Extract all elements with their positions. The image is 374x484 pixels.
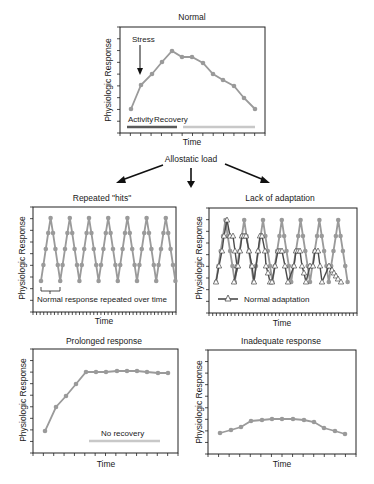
- circle-marker-icon: [82, 247, 87, 252]
- circle-marker-icon: [322, 426, 327, 431]
- panel-title: Prolonged response: [66, 336, 142, 346]
- circle-marker-icon: [41, 263, 46, 268]
- plot-frame: [208, 350, 356, 454]
- circle-marker-icon: [331, 249, 336, 254]
- circle-marker-icon: [270, 417, 275, 422]
- circle-marker-icon: [89, 231, 94, 236]
- circle-marker-icon: [338, 234, 343, 239]
- circle-marker-icon: [149, 247, 154, 252]
- prolonged-series: [43, 369, 171, 434]
- circle-marker-icon: [159, 247, 164, 252]
- x-axis-ticks: [209, 313, 357, 316]
- circle-marker-icon: [56, 263, 61, 268]
- circle-marker-icon: [92, 247, 97, 252]
- circle-marker-icon: [161, 231, 166, 236]
- panel-title: Repeated "hits": [73, 193, 132, 203]
- circle-marker-icon: [180, 55, 185, 60]
- x-axis-ticks: [33, 312, 176, 315]
- panel-title: Normal: [178, 12, 206, 22]
- circle-marker-icon: [261, 218, 266, 223]
- circle-marker-icon: [125, 216, 130, 221]
- circle-marker-icon: [75, 263, 80, 268]
- panel-inadequate-response: Inadequate response Physiologic Response…: [194, 336, 356, 469]
- triangle-marker-icon: [301, 270, 306, 275]
- circle-marker-icon: [53, 247, 58, 252]
- circle-marker-icon: [87, 216, 92, 221]
- circle-marker-icon: [128, 231, 133, 236]
- stress-label: Stress: [132, 35, 155, 44]
- circle-marker-icon: [96, 279, 101, 284]
- circle-marker-icon: [101, 247, 106, 252]
- allostatic-load-diagram: Normal Physiologic Response Time Stress …: [0, 0, 374, 484]
- response-series: [129, 49, 258, 112]
- circle-marker-icon: [291, 417, 296, 422]
- y-axis-label: Physiologic Response: [17, 216, 27, 300]
- circle-marker-icon: [156, 371, 161, 376]
- circle-marker-icon: [302, 418, 307, 423]
- triangle-marker-icon: [232, 248, 237, 253]
- y-axis-label: Physiologic Response: [194, 360, 204, 444]
- circle-marker-icon: [64, 394, 69, 399]
- circle-marker-icon: [72, 247, 77, 252]
- allostatic-load-label: Allostatic load: [165, 154, 218, 164]
- x-axis-label: Time: [95, 316, 114, 326]
- circle-marker-icon: [156, 263, 161, 268]
- circle-marker-icon: [147, 231, 152, 236]
- circle-marker-icon: [113, 263, 118, 268]
- circle-marker-icon: [166, 371, 171, 376]
- panel-repeated-hits: Repeated "hits" Physiologic Response Tim…: [17, 193, 178, 326]
- circle-marker-icon: [232, 84, 237, 89]
- circle-marker-icon: [239, 425, 244, 430]
- circle-marker-icon: [170, 49, 175, 54]
- circle-marker-icon: [282, 234, 287, 239]
- circle-marker-icon: [211, 72, 216, 77]
- circle-marker-icon: [115, 369, 120, 374]
- circle-marker-icon: [322, 249, 327, 254]
- circle-marker-icon: [145, 370, 150, 375]
- circle-marker-icon: [190, 55, 195, 60]
- triangle-marker-icon: [317, 263, 322, 268]
- panel-prolonged-response: Prolonged response Physiologic Response …: [18, 336, 178, 469]
- circle-marker-icon: [46, 231, 51, 236]
- triangle-marker-icon: [225, 295, 231, 301]
- circle-marker-icon: [228, 249, 233, 254]
- lack-of-adaptation-series: [213, 217, 350, 284]
- circle-marker-icon: [84, 231, 89, 236]
- circle-marker-icon: [296, 234, 301, 239]
- circle-marker-icon: [253, 107, 258, 112]
- legend-label: Normal adaptation: [244, 295, 309, 304]
- inadequate-series: [218, 417, 348, 437]
- circle-marker-icon: [218, 431, 223, 436]
- panel-title: Lack of adaptation: [245, 193, 315, 203]
- circle-marker-icon: [333, 429, 338, 434]
- panel-normal: Normal Physiologic Response Time Stress …: [103, 12, 265, 147]
- circle-marker-icon: [242, 218, 247, 223]
- circle-marker-icon: [150, 72, 155, 77]
- circle-marker-icon: [173, 279, 178, 284]
- circle-marker-icon: [60, 263, 65, 268]
- circle-marker-icon: [132, 263, 137, 268]
- circle-marker-icon: [336, 218, 341, 223]
- circle-marker-icon: [51, 231, 56, 236]
- circle-marker-icon: [154, 279, 159, 284]
- circle-marker-icon: [260, 418, 265, 423]
- circle-marker-icon: [277, 234, 282, 239]
- circle-marker-icon: [116, 279, 121, 284]
- arrow-down-icon: [187, 168, 195, 188]
- circle-marker-icon: [58, 279, 63, 284]
- circle-marker-icon: [44, 247, 49, 252]
- circle-marker-icon: [284, 249, 289, 254]
- circle-marker-icon: [48, 216, 53, 221]
- circle-marker-icon: [345, 280, 350, 285]
- circle-marker-icon: [65, 231, 70, 236]
- circle-marker-icon: [94, 263, 99, 268]
- bracket-label: Normal response repeated over time: [37, 295, 167, 304]
- circle-marker-icon: [68, 216, 73, 221]
- circle-marker-icon: [54, 405, 59, 410]
- circle-marker-icon: [84, 370, 89, 375]
- circle-marker-icon: [104, 231, 109, 236]
- circle-marker-icon: [341, 249, 346, 254]
- triangle-marker-icon: [319, 279, 324, 284]
- x-axis-label: Time: [183, 137, 202, 147]
- circle-marker-icon: [125, 369, 130, 374]
